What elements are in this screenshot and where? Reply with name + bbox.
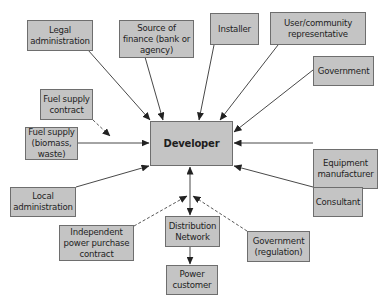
node-distribution-network: Distribution Network bbox=[165, 216, 220, 247]
node-label: Local administration bbox=[13, 191, 73, 213]
edge-fuel-contract bbox=[93, 120, 110, 136]
stakeholder-diagram: Legal administration Source of finance (… bbox=[0, 0, 389, 305]
node-label: Equipment manufacturer bbox=[316, 158, 375, 180]
node-label: Government (regulation) bbox=[250, 236, 307, 258]
node-fuel-supply: Fuel supply (biomass, waste) bbox=[25, 127, 78, 160]
node-government-regulation: Government (regulation) bbox=[247, 231, 310, 262]
node-label: Fuel supply (biomass, waste) bbox=[28, 127, 75, 160]
edge-finance bbox=[145, 57, 163, 120]
node-source-of-finance: Source of finance (bank or agency) bbox=[119, 20, 194, 58]
node-label: Power customer bbox=[169, 269, 215, 291]
node-power-customer: Power customer bbox=[166, 265, 218, 295]
node-installer: Installer bbox=[210, 13, 259, 45]
node-equipment-manufacturer: Equipment manufacturer bbox=[313, 149, 378, 189]
node-legal-administration: Legal administration bbox=[27, 20, 93, 51]
node-local-administration: Local administration bbox=[10, 187, 76, 217]
node-label: Developer bbox=[164, 138, 220, 149]
node-independent-power-purchase-contract: Independent power purchase contract bbox=[59, 225, 134, 261]
node-user-community-representative: User/community representative bbox=[270, 12, 366, 45]
node-label: User/community representative bbox=[273, 18, 363, 40]
node-label: Distribution Network bbox=[168, 221, 217, 243]
node-label: Fuel supply contract bbox=[43, 94, 90, 116]
edge-local-admin bbox=[76, 166, 149, 187]
node-consultant: Consultant bbox=[313, 187, 363, 217]
node-label: Consultant bbox=[316, 197, 360, 208]
node-fuel-supply-contract: Fuel supply contract bbox=[40, 89, 93, 120]
edge-legal-admin bbox=[88, 50, 150, 120]
node-label: Legal administration bbox=[30, 25, 90, 47]
edge-consultant bbox=[234, 166, 313, 187]
node-government: Government bbox=[313, 56, 374, 86]
node-label: Installer bbox=[218, 24, 251, 35]
node-developer: Developer bbox=[150, 121, 233, 166]
edge-user-rep bbox=[220, 45, 278, 120]
node-label: Source of finance (bank or agency) bbox=[122, 23, 191, 56]
edge-installer bbox=[199, 45, 214, 120]
node-label: Government bbox=[318, 66, 370, 77]
node-label: Independent power purchase contract bbox=[62, 227, 131, 260]
edge-government bbox=[234, 70, 313, 132]
